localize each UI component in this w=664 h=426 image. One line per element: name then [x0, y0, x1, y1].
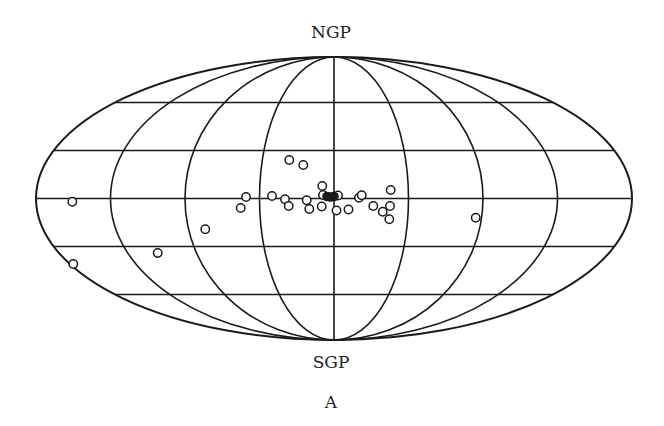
open-data-point — [299, 161, 307, 169]
open-data-point — [318, 182, 326, 190]
open-data-point — [472, 214, 480, 222]
open-data-point — [387, 186, 395, 194]
north-galactic-pole-label: NGP — [281, 22, 381, 42]
open-data-point — [285, 202, 293, 210]
open-data-point — [154, 249, 162, 257]
open-data-point — [305, 205, 313, 213]
open-data-point — [303, 196, 311, 204]
open-data-point — [242, 193, 250, 201]
open-data-point — [268, 192, 276, 200]
open-data-point — [379, 208, 387, 216]
open-data-point — [285, 156, 293, 164]
open-data-point — [369, 202, 377, 210]
panel-label: A — [281, 392, 381, 412]
sky-map-figure: NGP SGP A — [0, 0, 664, 426]
open-data-point — [358, 191, 366, 199]
open-data-point — [332, 206, 340, 214]
open-data-point — [237, 204, 245, 212]
open-data-point — [385, 215, 393, 223]
open-data-point — [69, 260, 77, 268]
open-data-point — [318, 202, 326, 210]
filled-data-point — [330, 192, 338, 200]
open-data-point — [386, 202, 394, 210]
open-data-point — [344, 205, 352, 213]
south-galactic-pole-label: SGP — [281, 352, 381, 372]
open-data-point — [201, 225, 209, 233]
open-data-point — [68, 198, 76, 206]
